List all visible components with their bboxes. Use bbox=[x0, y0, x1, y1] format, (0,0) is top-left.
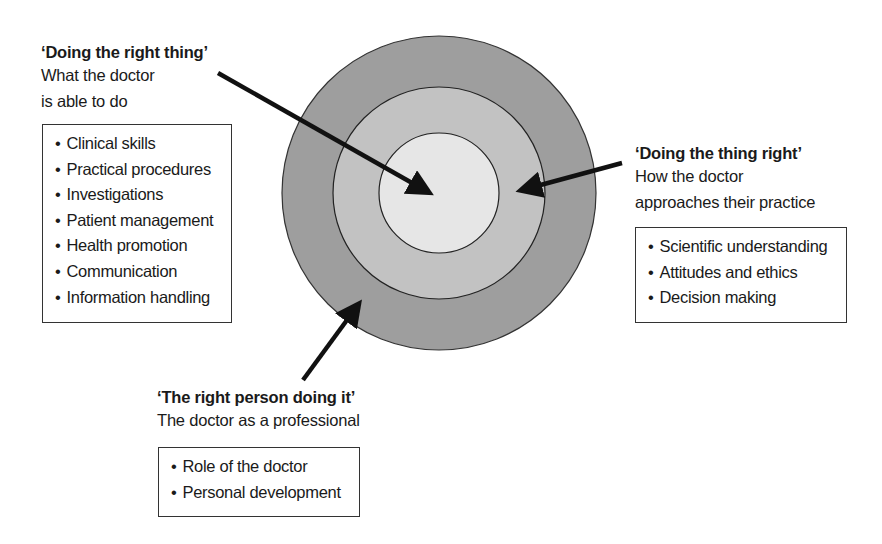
list-item: Scientific understanding bbox=[648, 234, 836, 260]
bottom-title: ‘The right person doing it’ bbox=[157, 388, 355, 407]
right-subtitle-2: approaches their practice bbox=[635, 190, 815, 214]
left-title: ‘Doing the right thing’ bbox=[41, 43, 208, 62]
left-subtitle-1: What the doctor bbox=[41, 63, 154, 87]
list-item: Information handling bbox=[55, 285, 221, 311]
arrow-right-person bbox=[303, 305, 358, 380]
right-subtitle-1: How the doctor bbox=[635, 164, 743, 188]
bottom-subtitle-1: The doctor as a professional bbox=[157, 408, 360, 432]
right-title: ‘Doing the thing right’ bbox=[635, 144, 802, 163]
list-item: Health promotion bbox=[55, 233, 221, 259]
list-item: Patient management bbox=[55, 208, 221, 234]
inner-ring bbox=[379, 133, 499, 253]
list-item: Decision making bbox=[648, 285, 836, 311]
right-list-box: Scientific understanding Attitudes and e… bbox=[635, 227, 847, 323]
list-item: Clinical skills bbox=[55, 131, 221, 157]
left-subtitle-2: is able to do bbox=[41, 89, 127, 113]
list-item: Personal development bbox=[171, 480, 349, 506]
list-item: Role of the doctor bbox=[171, 454, 349, 480]
list-item: Investigations bbox=[55, 182, 221, 208]
list-item: Practical procedures bbox=[55, 157, 221, 183]
list-item: Attitudes and ethics bbox=[648, 260, 836, 286]
left-list-box: Clinical skills Practical procedures Inv… bbox=[42, 124, 232, 323]
bottom-list-box: Role of the doctor Personal development bbox=[158, 447, 360, 517]
list-item: Communication bbox=[55, 259, 221, 285]
